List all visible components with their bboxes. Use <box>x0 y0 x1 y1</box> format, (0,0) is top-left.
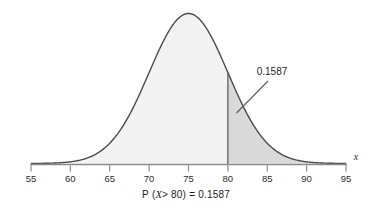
x-tick-label-95: 95 <box>341 173 352 184</box>
caption-rest: > 80) = 0.1587 <box>162 189 230 200</box>
tail-probability-annotation: 0.1587 <box>257 66 288 77</box>
distribution-body-area <box>31 14 228 164</box>
x-tick-label-65: 65 <box>104 173 115 184</box>
annotation-leader-line <box>237 81 269 113</box>
x-axis-label: x <box>353 151 359 162</box>
x-tick-label-90: 90 <box>301 173 312 184</box>
figure-caption: P (X> 80) = 0.1587 <box>0 189 372 200</box>
x-tick-label-75: 75 <box>183 173 194 184</box>
normal-distribution-figure: 556065707580859095 x 0.1587 P (X> 80) = … <box>0 0 372 214</box>
x-tick-label-80: 80 <box>223 173 234 184</box>
x-tick-label-85: 85 <box>262 173 273 184</box>
x-tick-label-55: 55 <box>26 173 37 184</box>
x-axis-ticks: 556065707580859095 <box>26 165 352 184</box>
distribution-tail-area <box>228 73 346 164</box>
x-tick-label-60: 60 <box>65 173 76 184</box>
caption-prefix: P <box>142 189 149 200</box>
distribution-plot: 556065707580859095 x 0.1587 <box>0 0 372 214</box>
x-tick-label-70: 70 <box>144 173 155 184</box>
